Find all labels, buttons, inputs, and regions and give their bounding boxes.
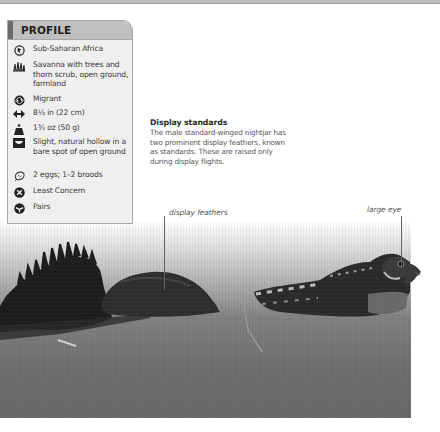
range-map-icon xyxy=(13,44,25,56)
profile-row-migration: Migrant xyxy=(8,94,132,106)
profile-row-length: 8½ in (22 cm) xyxy=(8,108,132,120)
photo-grain xyxy=(0,222,411,418)
length-arrows-icon xyxy=(13,108,25,120)
weight-icon xyxy=(13,123,25,135)
egg-icon xyxy=(13,170,25,182)
social-text: Pairs xyxy=(33,202,50,212)
eggs-text: 2 eggs; 1–2 broods xyxy=(33,170,103,180)
callout-display-feathers: display feathers xyxy=(169,208,228,217)
article-body: The male standard-winged nightjar has tw… xyxy=(150,128,290,166)
conservation-status-icon xyxy=(13,186,25,198)
profile-row-nest: Slight, natural hollow in a bare spot of… xyxy=(8,137,132,156)
display-standards-article: Display standards The male standard-wing… xyxy=(150,118,290,166)
social-pairs-icon xyxy=(13,202,25,214)
article-heading: Display standards xyxy=(150,118,290,127)
length-text: 8½ in (22 cm) xyxy=(33,108,85,118)
top-rule xyxy=(0,0,440,4)
migration-text: Migrant xyxy=(33,94,61,104)
habitat-text: Savanna with trees and thorn scrub, open… xyxy=(33,60,132,89)
nest-icon xyxy=(13,137,25,149)
display-feathers-leader-line xyxy=(164,216,165,290)
profile-panel: PROFILE Sub-Saharan Africa Savanna with … xyxy=(7,20,133,224)
profile-header: PROFILE xyxy=(8,21,132,40)
weight-text: 1¾ oz (50 g) xyxy=(33,123,80,133)
profile-row-habitat: Savanna with trees and thorn scrub, open… xyxy=(8,60,132,89)
profile-row-weight: 1¾ oz (50 g) xyxy=(8,123,132,135)
profile-row-conservation: Least Concern xyxy=(8,186,132,198)
conservation-text: Least Concern xyxy=(33,186,85,196)
large-eye-leader-line xyxy=(401,216,402,266)
profile-row-eggs: 2 eggs; 1–2 broods xyxy=(8,170,132,182)
habitat-grass-icon xyxy=(13,60,25,72)
bird-head-overflow xyxy=(405,262,423,286)
migration-arrows-icon xyxy=(13,94,25,106)
callout-large-eye: large eye xyxy=(367,205,401,214)
nightjar-photo xyxy=(0,222,411,418)
profile-row-range: Sub-Saharan Africa xyxy=(8,44,132,56)
profile-row-social: Pairs xyxy=(8,202,132,214)
nest-text: Slight, natural hollow in a bare spot of… xyxy=(33,137,132,156)
range-text: Sub-Saharan Africa xyxy=(33,44,103,54)
header-accent-bar xyxy=(8,21,13,39)
profile-title: PROFILE xyxy=(21,24,71,36)
